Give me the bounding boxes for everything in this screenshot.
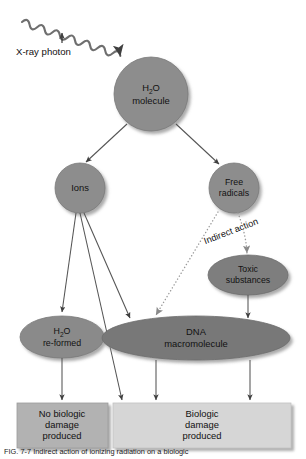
node-free-radicals-line1: Free bbox=[225, 177, 243, 187]
edge-free-radicals-to-dna bbox=[156, 212, 218, 315]
edge-water-to-ions bbox=[86, 124, 127, 162]
no-damage-line2: damage bbox=[45, 419, 79, 430]
edge-ions-to-water-reformed bbox=[62, 213, 76, 312]
damage-line1: Biologic bbox=[186, 408, 219, 419]
no-damage-line1: No biologic bbox=[39, 408, 86, 419]
node-toxic-substances[interactable]: Toxic substances bbox=[208, 255, 288, 295]
radiation-pathway-diagram: X-ray photon H2O molecule Ions Free radi… bbox=[0, 0, 306, 459]
node-water-reformed[interactable]: H2O re-formed bbox=[20, 316, 104, 358]
damage-line3: produced bbox=[182, 430, 221, 441]
node-toxic-line1: Toxic bbox=[238, 264, 259, 274]
xray-photon-label: X-ray photon bbox=[16, 46, 71, 57]
node-free-radicals-line2: radicals bbox=[219, 188, 250, 198]
box-no-biologic-damage[interactable]: No biologic damage produced bbox=[17, 403, 108, 448]
diagram-canvas: X-ray photon H2O molecule Ions Free radi… bbox=[0, 0, 306, 459]
node-dna-line2: macromolecule bbox=[164, 338, 228, 349]
node-dna-line1: DNA bbox=[186, 326, 207, 337]
node-ions-label: Ions bbox=[71, 182, 89, 193]
node-free-radicals[interactable]: Free radicals bbox=[209, 163, 259, 213]
node-water-line2: molecule bbox=[132, 95, 170, 106]
node-water-reformed-line2: re-formed bbox=[43, 338, 81, 348]
edge-ions-to-biologic-damage bbox=[80, 213, 122, 400]
damage-line2: damage bbox=[185, 419, 219, 430]
node-dna-macromolecule[interactable]: DNA macromolecule bbox=[102, 316, 290, 360]
node-water-molecule[interactable]: H2O molecule bbox=[114, 57, 188, 131]
box-biologic-damage[interactable]: Biologic damage produced bbox=[113, 403, 291, 448]
edge-water-to-free-radicals bbox=[176, 124, 219, 164]
node-toxic-line2: substances bbox=[226, 275, 271, 285]
edge-ions-to-dna bbox=[84, 213, 130, 318]
figure-caption: FIG. 7-7 Indirect action of ionizing rad… bbox=[4, 447, 304, 459]
indirect-action-label: Indirect action bbox=[202, 216, 259, 246]
no-damage-line3: produced bbox=[42, 430, 81, 441]
node-ions[interactable]: Ions bbox=[55, 163, 105, 213]
